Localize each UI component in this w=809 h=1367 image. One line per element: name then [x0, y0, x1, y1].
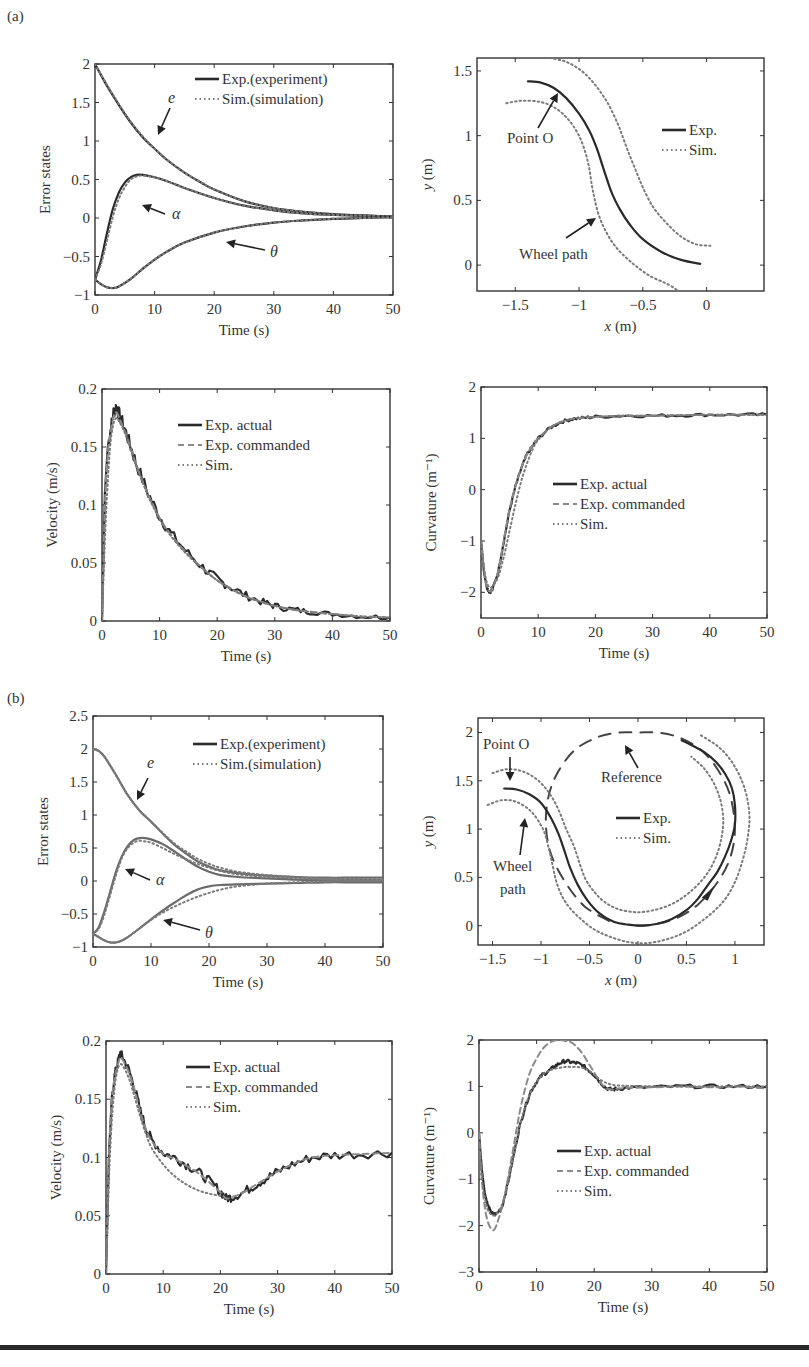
y-tick-label: 0.15: [75, 1091, 101, 1107]
series-line: [93, 881, 383, 943]
legend-label: Exp. commanded: [213, 1079, 318, 1095]
y-tick-label: 1: [465, 128, 473, 144]
chart-b-path: −1.5−1−0.500.5100.511.52x (m)y (m)Point …: [420, 718, 764, 989]
annotation-label: θ: [270, 243, 278, 260]
x-tick-label: 50: [386, 301, 401, 317]
x-tick-label: 50: [376, 953, 391, 969]
y-axis-label: Velocity (m/s): [48, 1115, 65, 1200]
legend-label: Sim.(simulation): [220, 756, 321, 773]
legend-label: Sim.: [205, 457, 233, 473]
y-tick-label: 2: [81, 741, 89, 757]
x-axis-label: Time (s): [219, 322, 270, 339]
chart-b-velocity: 0102030405000.050.10.150.2Time (s)Veloci…: [48, 1033, 400, 1318]
x-tick-label: 20: [588, 624, 603, 640]
annotation-label: Wheel path: [519, 246, 588, 262]
x-tick-label: −0.5: [629, 297, 656, 313]
series-line: [106, 1064, 220, 1274]
legend-label: Exp. actual: [205, 417, 272, 433]
y-tick-label: 0.5: [453, 192, 472, 208]
y-tick-label: 0.1: [82, 1150, 101, 1166]
y-tick-label: 0.05: [71, 555, 97, 571]
annotation-label: path: [500, 881, 526, 897]
x-tick-label: 0: [703, 297, 711, 313]
y-tick-label: 2: [83, 56, 91, 72]
x-tick-label: 20: [207, 301, 222, 317]
x-tick-label: 20: [202, 953, 217, 969]
plots-canvas: 01020304050−1−0.500.511.52Time (s)Error …: [0, 0, 809, 1367]
annotation-label: α: [156, 871, 165, 888]
annotation-label: e: [168, 89, 175, 106]
x-tick-label: 40: [327, 1280, 342, 1296]
x-tick-label: 50: [760, 624, 775, 640]
y-tick-label: −2: [458, 1218, 474, 1234]
x-tick-label: 0: [477, 624, 485, 640]
x-tick-label: 30: [270, 1280, 285, 1296]
x-tick-label: 50: [760, 1278, 775, 1294]
x-tick-label: 30: [645, 624, 660, 640]
chart-a-curvature: 01020304050−2−1012Time (s)Curvature (m⁻¹…: [423, 379, 775, 662]
annotation-label: Point O: [483, 736, 529, 752]
x-tick-label: 0: [91, 301, 99, 317]
legend-label: Exp. commanded: [584, 1163, 689, 1179]
annotation-arrow-icon: [586, 218, 596, 227]
annotation-label: θ: [205, 924, 213, 941]
y-tick-label: 0.1: [78, 497, 97, 513]
y-tick-label: 1: [83, 133, 91, 149]
y-tick-label: −0.5: [61, 906, 88, 922]
legend-label: Exp.: [689, 122, 717, 138]
y-tick-label: −1: [74, 287, 90, 303]
x-tick-label: 30: [644, 1278, 659, 1294]
y-tick-label: 0.2: [78, 381, 97, 397]
y-tick-label: 0: [81, 873, 89, 889]
chart-b-curvature: 01020304050−3−2−1012Time (s)Curvature (m…: [421, 1032, 775, 1316]
x-tick-label: 20: [213, 1280, 228, 1296]
y-tick-label: −2: [460, 584, 476, 600]
x-axis-label: x (m): [603, 318, 636, 335]
y-tick-label: 2: [467, 1032, 475, 1048]
x-tick-label: 40: [326, 301, 341, 317]
x-tick-label: −1: [533, 951, 549, 967]
annotation-label: e: [147, 754, 154, 771]
series-line: [479, 1040, 767, 1230]
plot-frame: [106, 1041, 392, 1274]
y-tick-label: 1: [81, 807, 89, 823]
y-tick-label: 0.5: [71, 172, 90, 188]
y-tick-label: 1.5: [69, 774, 88, 790]
y-tick-label: 0: [90, 613, 98, 629]
x-axis-label: x (m): [604, 972, 637, 989]
y-axis-label: Error states: [35, 797, 51, 866]
annotation-label: Wheel: [493, 858, 532, 874]
figure: (a) (b) 01020304050−1−0.500.511.52Time (…: [0, 0, 809, 1367]
annotation-label: α: [172, 205, 181, 222]
chart-b-error: 01020304050−1−0.500.511.522.5Time (s)Err…: [35, 708, 391, 991]
y-tick-label: 1.5: [454, 773, 473, 789]
series-line: [93, 838, 383, 934]
y-tick-label: 0.5: [69, 840, 88, 856]
legend-label: Sim.: [643, 830, 671, 846]
y-tick-label: 1: [466, 821, 474, 837]
x-tick-label: 0: [475, 1278, 483, 1294]
x-axis-label: Time (s): [213, 974, 264, 991]
series-line: [95, 217, 393, 288]
annotation-arrow-icon: [506, 772, 515, 781]
x-tick-label: 0: [102, 1280, 110, 1296]
y-tick-label: −1: [460, 533, 476, 549]
legend-label: Sim.: [689, 142, 717, 158]
x-tick-label: 40: [702, 1278, 717, 1294]
x-tick-label: 10: [156, 1280, 171, 1296]
series-line: [93, 882, 383, 942]
x-axis-label: Time (s): [221, 648, 272, 665]
y-tick-label: 0.5: [454, 869, 473, 885]
legend-label: Exp.(experiment): [220, 736, 325, 753]
x-tick-label: 30: [267, 627, 282, 643]
y-tick-label: 2.5: [69, 708, 88, 724]
annotation-label: Reference: [601, 769, 662, 785]
y-tick-label: 1.5: [71, 95, 90, 111]
series-line: [550, 58, 711, 246]
series-line: [479, 1060, 767, 1216]
legend-label: Exp. actual: [580, 476, 647, 492]
y-tick-label: 0: [465, 257, 473, 273]
x-tick-label: 50: [383, 627, 398, 643]
x-tick-label: 10: [152, 627, 167, 643]
x-tick-label: −1.5: [502, 297, 529, 313]
